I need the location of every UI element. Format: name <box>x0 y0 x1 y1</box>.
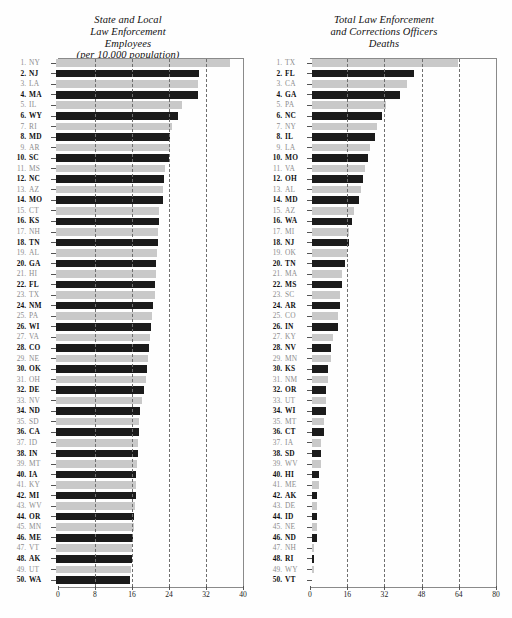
bar-track <box>312 121 512 132</box>
bar-track <box>312 343 512 354</box>
bar-track <box>56 554 256 565</box>
bar-row: 25.CO <box>256 311 512 322</box>
bar-row: 16.KS <box>0 216 256 227</box>
bar-track <box>312 332 512 343</box>
bar-row-rank: 49. <box>256 566 285 574</box>
bar-track <box>312 353 512 364</box>
bar <box>56 471 136 479</box>
bar <box>56 534 133 542</box>
bar-track <box>56 469 256 480</box>
bar-row: 22.MS <box>256 279 512 290</box>
bar-row: 46.ME <box>0 533 256 544</box>
bar-row-rank: 12. <box>0 175 29 183</box>
bar-row-state-label: OK <box>285 249 307 257</box>
bar-row-state-label: NY <box>285 123 307 131</box>
bar-row-state-label: NH <box>29 228 51 236</box>
bar-row-rank: 15. <box>0 207 29 215</box>
bar-row-rank: 40. <box>0 471 29 479</box>
bar-row-state-label: CA <box>285 80 307 88</box>
bar-row-state-label: NV <box>29 397 51 405</box>
bar-row-state-label: CO <box>29 344 51 352</box>
bar-row-state-label: KY <box>29 481 51 489</box>
bar-row-state-label: IL <box>29 101 51 109</box>
bar <box>56 523 134 531</box>
bar-row: 15.AZ <box>256 206 512 217</box>
bar-track <box>312 227 512 238</box>
bar-row: 45.MN <box>0 522 256 533</box>
bar-track <box>312 142 512 153</box>
bar-row: 6.WY <box>0 111 256 122</box>
bar <box>312 228 349 236</box>
bar-row-rank: 3. <box>0 80 29 88</box>
bar-row-rank: 25. <box>256 312 285 320</box>
bar-row-state-label: AZ <box>285 207 307 215</box>
bar-row: 45.NE <box>256 522 512 533</box>
bar <box>312 154 368 162</box>
bar <box>312 123 377 131</box>
bar <box>56 407 140 415</box>
bar-track <box>56 79 256 90</box>
bar-row: 43.DE <box>256 501 512 512</box>
bar-row-state-label: NM <box>29 302 51 310</box>
bar-row: 20.TN <box>256 258 512 269</box>
bar-track <box>312 279 512 290</box>
bar-track <box>56 90 256 101</box>
bar-row-rank: 31. <box>0 376 29 384</box>
bar-row-rank: 47. <box>256 544 285 552</box>
bar <box>56 239 158 247</box>
bar-row-state-label: MN <box>285 355 307 363</box>
bar-row: 47.NH <box>256 543 512 554</box>
bar <box>56 397 142 405</box>
bar-row-state-label: SC <box>285 291 307 299</box>
bar-row-rank: 19. <box>256 249 285 257</box>
bar <box>312 144 370 152</box>
bar-row: 44.OR <box>0 512 256 523</box>
bar-row-rank: 13. <box>256 186 285 194</box>
bar-row: 4.GA <box>256 90 512 101</box>
bar <box>56 186 163 194</box>
bar-row-rank: 26. <box>256 323 285 331</box>
bar-row: 39.WV <box>256 459 512 470</box>
bar-row-state-label: TX <box>285 59 307 67</box>
bar-row-rank: 36. <box>256 428 285 436</box>
x-axis-tick-label: 0 <box>56 590 60 599</box>
bar-track <box>56 290 256 301</box>
bar-row-state-label: CT <box>29 207 51 215</box>
chart-title-left-line-1: State and Local <box>0 14 256 26</box>
bar-row-rank: 22. <box>0 281 29 289</box>
bar-track <box>312 554 512 565</box>
bar-row-rank: 34. <box>256 407 285 415</box>
bar-row: 34.ND <box>0 406 256 417</box>
bar-row: 6.NC <box>256 111 512 122</box>
bar-row-rank: 24. <box>256 302 285 310</box>
bar <box>56 312 152 320</box>
bar-row-rank: 5. <box>256 101 285 109</box>
bar-track <box>312 216 512 227</box>
bar-row-rank: 39. <box>0 460 29 468</box>
bar <box>312 555 314 563</box>
bar <box>56 70 199 78</box>
bar-row-rank: 19. <box>0 249 29 257</box>
bar <box>312 270 342 278</box>
bar <box>312 323 338 331</box>
bar-track <box>312 301 512 312</box>
bar-row: 18.TN <box>0 237 256 248</box>
bar <box>56 334 150 342</box>
bar-track <box>56 438 256 449</box>
bar-track <box>312 79 512 90</box>
bar-row-state-label: VT <box>29 544 51 552</box>
bar-row-rank: 34. <box>0 407 29 415</box>
bar <box>56 439 138 447</box>
bar-track <box>56 301 256 312</box>
bar-row-rank: 33. <box>0 397 29 405</box>
bar-row-rank: 35. <box>256 418 285 426</box>
bar-track <box>312 100 512 111</box>
bar-row-state-label: WA <box>29 576 51 584</box>
bar-track <box>56 512 256 523</box>
bar-row-state-label: VT <box>285 576 307 584</box>
bar-row: 44.ID <box>256 512 512 523</box>
bar-row-rank: 33. <box>256 397 285 405</box>
bar-track <box>312 132 512 143</box>
bar-row-rank: 8. <box>0 133 29 141</box>
bar-row-state-label: ME <box>29 534 51 542</box>
